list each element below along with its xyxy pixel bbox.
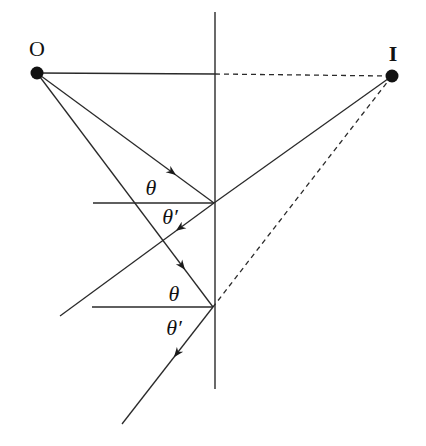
mirror-reflection-diagram: O I θ θ′ θ θ′	[0, 0, 426, 446]
object-point-icon	[31, 67, 44, 80]
incident-angle-label-1: θ	[146, 175, 157, 200]
incident-ray-1	[37, 73, 214, 203]
image-label: I	[389, 41, 398, 66]
incident-ray-2	[37, 73, 213, 307]
image-perpendicular-dashed-line	[215, 74, 392, 76]
image-to-p1-line	[214, 76, 392, 203]
image-point-icon	[386, 70, 399, 83]
incident-angle-label-2: θ	[169, 281, 180, 306]
reflected-ray-1	[60, 203, 214, 316]
reflected-angle-label-2: θ′	[166, 315, 183, 340]
reflected-angle-label-1: θ′	[162, 204, 179, 229]
image-to-p2-dashed-line	[213, 76, 392, 307]
object-perpendicular-line	[37, 73, 215, 74]
object-label: O	[29, 36, 45, 61]
